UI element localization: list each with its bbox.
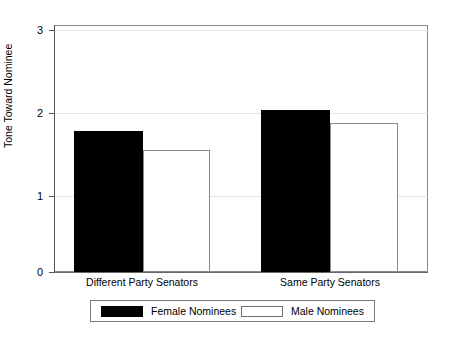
category-label-different-party: Different Party Senators xyxy=(62,276,222,288)
x-axis-line xyxy=(54,272,428,273)
y-tick-mark-3 xyxy=(49,30,54,31)
legend-label-female-nominees: Female Nominees xyxy=(151,305,236,317)
y-tick-mark-2 xyxy=(49,113,54,114)
legend-swatch-male-nominees-icon xyxy=(241,306,283,317)
y-tick-label-0: 0 xyxy=(19,267,43,278)
bar-female-same-party xyxy=(261,110,330,272)
y-tick-mark-0 xyxy=(49,272,54,273)
y-tick-label-1: 1 xyxy=(19,191,43,202)
gridline-2 xyxy=(55,113,428,114)
y-axis-line xyxy=(54,25,55,273)
legend-entry-male-nominees: Male Nominees xyxy=(241,304,364,318)
legend-entry-female-nominees: Female Nominees xyxy=(101,304,236,318)
y-axis-title: Tone Toward Nominee xyxy=(3,44,14,148)
bar-female-different-party xyxy=(74,131,143,272)
category-label-same-party: Same Party Senators xyxy=(250,276,410,288)
bar-male-different-party xyxy=(143,150,210,272)
y-tick-mark-1 xyxy=(49,196,54,197)
y-tick-label-3: 3 xyxy=(19,25,43,36)
chart-legend: Female Nominees Male Nominees xyxy=(90,300,375,322)
bar-male-same-party xyxy=(330,123,398,272)
gridline-3 xyxy=(55,30,428,31)
legend-swatch-female-nominees-icon xyxy=(101,306,143,317)
bar-chart-figure: 3 2 1 0 Tone Toward Nominee Different Pa… xyxy=(0,0,450,341)
y-tick-label-2: 2 xyxy=(19,108,43,119)
legend-label-male-nominees: Male Nominees xyxy=(291,305,364,317)
